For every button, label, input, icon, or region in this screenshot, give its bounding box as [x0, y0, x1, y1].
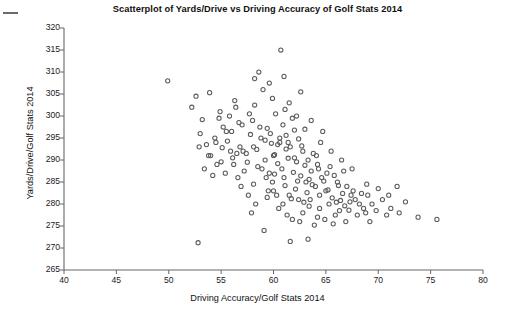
data-point [365, 182, 369, 186]
data-point [238, 145, 242, 149]
data-point [370, 202, 374, 206]
data-point [274, 112, 278, 116]
data-point [197, 145, 201, 149]
data-point [304, 180, 308, 184]
data-point [303, 127, 307, 131]
data-point [385, 213, 389, 217]
data-point [242, 169, 246, 173]
data-point [218, 110, 222, 114]
data-point [231, 156, 235, 160]
data-point [256, 165, 260, 169]
data-point [299, 90, 303, 94]
data-point [334, 200, 338, 204]
data-point [211, 173, 215, 177]
data-point [295, 179, 299, 183]
data-point [285, 213, 289, 217]
data-point [343, 204, 347, 208]
data-point [307, 204, 311, 208]
data-point [286, 140, 290, 144]
data-point [200, 117, 204, 121]
data-point [264, 176, 268, 180]
data-point [215, 162, 219, 166]
data-point [332, 173, 336, 177]
data-point [294, 114, 298, 118]
data-point [338, 198, 342, 202]
data-point [247, 112, 251, 116]
data-point [267, 171, 271, 175]
data-point [361, 206, 365, 210]
data-point [315, 162, 319, 166]
data-point [259, 136, 263, 140]
data-point [235, 151, 239, 155]
data-point [297, 198, 301, 202]
data-point [267, 81, 271, 85]
data-point [435, 217, 439, 221]
scatterplot-figure: Scatterplot of Yards/Drive vs Driving Ac… [0, 0, 515, 317]
data-point [347, 208, 351, 212]
data-point [403, 200, 407, 204]
data-point [272, 172, 276, 176]
data-point [322, 179, 326, 183]
data-point [350, 167, 354, 171]
data-point [323, 217, 327, 221]
data-point [297, 137, 301, 141]
data-point [328, 165, 332, 169]
data-point [300, 144, 304, 148]
data-point [282, 176, 286, 180]
data-point [290, 217, 294, 221]
data-point [282, 74, 286, 78]
data-point [355, 213, 359, 217]
data-point [317, 206, 321, 210]
data-point [312, 223, 316, 227]
data-point [217, 116, 221, 120]
data-point [283, 183, 287, 187]
data-point [248, 132, 252, 136]
data-point [309, 169, 313, 173]
data-point [252, 145, 256, 149]
data-point [368, 220, 372, 224]
scatter-series [166, 48, 439, 245]
data-point [227, 114, 231, 118]
data-point [194, 94, 198, 98]
data-point [239, 184, 243, 188]
data-point [279, 48, 283, 52]
data-point [337, 209, 341, 213]
data-point [286, 156, 290, 160]
data-point [268, 132, 272, 136]
data-point [204, 143, 208, 147]
data-point [306, 158, 310, 162]
data-point [263, 158, 267, 162]
data-point [221, 125, 225, 129]
data-point [213, 136, 217, 140]
data-point [290, 116, 294, 120]
data-point [258, 125, 262, 129]
data-point [292, 128, 296, 132]
data-point [395, 184, 399, 188]
data-point [291, 170, 295, 174]
data-point [302, 200, 306, 204]
data-point [254, 202, 258, 206]
data-point [345, 184, 349, 188]
data-point [281, 202, 285, 206]
data-point [389, 206, 393, 210]
data-point [353, 198, 357, 202]
data-point [299, 174, 303, 178]
data-point [349, 193, 353, 197]
data-point [387, 193, 391, 197]
data-point [270, 180, 274, 184]
data-point [224, 129, 228, 133]
data-point [288, 239, 292, 243]
data-point [275, 193, 279, 197]
data-point [376, 187, 380, 191]
data-point [315, 215, 319, 219]
data-point [233, 99, 237, 103]
data-point [314, 154, 318, 158]
data-point [331, 222, 335, 226]
data-point [359, 191, 363, 195]
data-point [308, 198, 312, 202]
data-point [261, 88, 265, 92]
data-point [269, 141, 273, 145]
data-point [301, 149, 305, 153]
data-point [280, 167, 284, 171]
data-point [245, 160, 249, 164]
